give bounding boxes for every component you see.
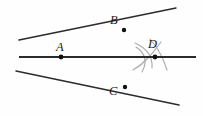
geometry-figure: A B C D <box>0 0 203 116</box>
point-dot-D <box>153 55 158 60</box>
point-dot-B <box>122 28 126 32</box>
point-label-C: C <box>109 85 117 98</box>
point-label-D: D <box>148 38 157 51</box>
point-dot-C <box>123 85 127 89</box>
line-through-A-and-B <box>19 8 176 40</box>
point-dots-group <box>59 28 158 89</box>
point-label-A: A <box>56 41 64 54</box>
figure-canvas <box>0 0 203 116</box>
line-through-A-and-C <box>16 71 179 105</box>
point-label-B: B <box>110 14 118 27</box>
compass-arc-left-long <box>136 47 145 72</box>
point-dot-A <box>59 55 64 60</box>
lines-group <box>16 8 196 105</box>
